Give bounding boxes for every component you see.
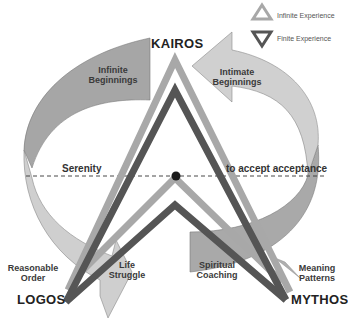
label-meaning-patterns: Meaning Patterns bbox=[291, 264, 343, 284]
finite-chevron bbox=[66, 90, 286, 302]
legend-finite-label: Finite Experience bbox=[277, 35, 331, 43]
label-spiritual-coaching: Spiritual Coaching bbox=[192, 261, 242, 281]
label-line: Order bbox=[5, 274, 61, 284]
label-accept-acceptance: to accept acceptance bbox=[226, 163, 327, 174]
pole-kairos: KAIROS bbox=[151, 37, 203, 51]
label-line: Patterns bbox=[291, 274, 343, 284]
label-reasonable-order: Reasonable Order bbox=[5, 264, 61, 284]
label-intimate-beginnings: Intimate Beginnings bbox=[212, 68, 262, 88]
label-serenity: Serenity bbox=[62, 163, 101, 174]
label-line: Beginnings bbox=[88, 76, 138, 86]
center-dot bbox=[172, 172, 181, 181]
pole-mythos: MYTHOS bbox=[291, 293, 348, 307]
label-line: Coaching bbox=[192, 271, 242, 281]
label-infinite-beginnings: Infinite Beginnings bbox=[88, 66, 138, 86]
label-life-struggle: Life Struggle bbox=[104, 261, 150, 281]
triangle-down-icon bbox=[253, 32, 271, 46]
triangle-up-icon bbox=[253, 5, 271, 19]
pole-logos: LOGOS bbox=[17, 293, 65, 307]
legend-infinite-label: Infinite Experience bbox=[277, 12, 335, 20]
label-line: Struggle bbox=[104, 271, 150, 281]
label-line: Beginnings bbox=[212, 78, 262, 88]
